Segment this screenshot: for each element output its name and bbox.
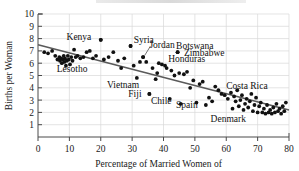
data-point (71, 59, 75, 63)
data-point (88, 49, 92, 53)
data-point (155, 71, 159, 75)
y-tick-label: 6 (29, 59, 34, 69)
country-label-costa-rica: Costa Rica (226, 81, 268, 91)
y-tick-label: 2 (29, 108, 34, 118)
data-point (82, 55, 86, 59)
data-point (207, 96, 211, 100)
data-point (66, 54, 70, 58)
y-tick-label: 4 (29, 83, 34, 93)
data-point (238, 98, 242, 102)
data-point (245, 97, 249, 101)
y-tick-label: 3 (29, 96, 34, 106)
data-point (281, 104, 285, 108)
chart-canvas: 1234567891001020304050607080 KenyaSyriaJ… (0, 0, 299, 171)
data-point (204, 103, 208, 107)
data-point (271, 106, 275, 110)
data-point (279, 112, 283, 116)
data-point (234, 99, 238, 103)
data-point (46, 51, 50, 55)
data-point (119, 66, 123, 70)
data-point (226, 97, 230, 101)
data-point (223, 93, 227, 97)
data-point (102, 58, 106, 62)
x-axis-title: Percentage of Married Women of (95, 159, 223, 169)
x-tick-label: 30 (127, 144, 137, 154)
data-point (232, 95, 236, 99)
data-point (154, 77, 158, 81)
data-point (116, 59, 120, 63)
data-point-labeled (99, 38, 103, 42)
x-tick-label: 40 (159, 144, 169, 154)
data-point-labeled (141, 55, 145, 59)
data-point (201, 80, 205, 84)
y-tick-label: 10 (25, 9, 35, 19)
data-point (253, 103, 257, 107)
data-point (182, 72, 186, 76)
data-point (165, 66, 169, 70)
data-point (217, 88, 221, 92)
data-point (72, 48, 76, 52)
data-point (257, 104, 261, 108)
data-point (91, 56, 95, 60)
data-point (278, 107, 282, 111)
data-point (111, 50, 115, 54)
country-label-honduras: Honduras (168, 54, 205, 64)
data-point (185, 70, 189, 74)
data-point (248, 99, 252, 103)
data-point (191, 79, 195, 83)
data-point (169, 69, 173, 73)
y-axis-title: Births per Woman (4, 41, 14, 110)
data-point (173, 74, 177, 78)
data-point (198, 82, 202, 86)
x-tick-label: 80 (284, 144, 294, 154)
data-point (268, 108, 272, 112)
scatter-plot-figure: 1234567891001020304050607080 KenyaSyriaJ… (0, 0, 299, 171)
y-tick-label: 5 (29, 71, 34, 81)
y-tick-label: 1 (29, 120, 34, 130)
country-label-denmark: Denmark (211, 114, 247, 124)
y-tick-label: 7 (29, 46, 34, 56)
country-label-spain: Spain (176, 100, 198, 110)
x-tick-label: 70 (253, 144, 263, 154)
data-point (240, 93, 244, 97)
data-point (210, 99, 214, 103)
x-tick-label: 20 (96, 144, 106, 154)
y-tick-label: 8 (29, 34, 34, 44)
data-point (231, 107, 235, 111)
data-point (177, 71, 181, 75)
y-tick-label: 9 (29, 22, 34, 32)
data-point (249, 92, 253, 96)
country-label-jordan: Jordan (149, 40, 175, 50)
data-point (151, 66, 155, 70)
data-point (107, 55, 111, 59)
x-tick-label: 50 (190, 144, 200, 154)
data-point (138, 60, 142, 64)
data-point (246, 106, 250, 110)
data-point (188, 86, 192, 90)
data-point (275, 102, 279, 106)
country-label-lesotho: Lesotho (57, 64, 88, 74)
x-tick-label: 0 (36, 144, 41, 154)
data-point-labeled (129, 44, 133, 48)
x-tick-label: 60 (222, 144, 232, 154)
data-point (94, 54, 98, 58)
country-label-fiji: Fiji (128, 89, 142, 99)
data-point (251, 109, 255, 113)
data-point (262, 107, 266, 111)
data-point (254, 96, 258, 100)
data-point (242, 108, 246, 112)
data-point (69, 55, 73, 59)
data-point (237, 104, 241, 108)
data-point (213, 85, 217, 89)
data-point (284, 101, 288, 105)
data-point (229, 91, 233, 95)
country-label-vietnam: Vietnam (107, 80, 140, 90)
data-point (53, 54, 57, 58)
data-point (132, 64, 136, 68)
data-point (259, 101, 263, 105)
data-point (144, 60, 148, 64)
data-point (122, 56, 126, 60)
data-point (243, 102, 247, 106)
data-point (42, 50, 46, 54)
data-point (265, 103, 269, 107)
